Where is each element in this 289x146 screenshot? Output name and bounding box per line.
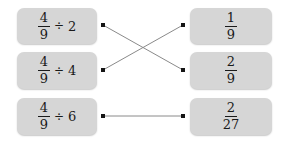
match-option-left-2[interactable]: 4 9 ÷ 4 — [17, 52, 97, 89]
division-operator-icon: ÷ — [53, 111, 65, 123]
fraction-numerator: 2 — [225, 55, 237, 71]
fraction-denominator: 9 — [38, 71, 50, 86]
connector-line-left-1-to-right-2[interactable] — [103, 25, 183, 70]
division-operator-icon: ÷ — [53, 65, 65, 77]
fraction-left-3: 4 9 — [38, 101, 50, 131]
fraction-left-1: 4 9 — [38, 11, 50, 41]
fraction-denominator: 9 — [38, 117, 50, 132]
fraction-left-2: 4 9 — [38, 55, 50, 85]
dot-right-1[interactable] — [181, 23, 185, 27]
connector-lines — [103, 25, 183, 116]
expression-right-1: 1 9 — [225, 11, 237, 41]
dot-left-3[interactable] — [101, 114, 105, 118]
dot-right-3[interactable] — [181, 114, 185, 118]
matching-exercise-canvas: 4 9 ÷ 2 4 9 ÷ 4 4 9 ÷ 6 — [0, 0, 289, 146]
fraction-right-3: 2 27 — [221, 101, 242, 131]
connector-line-left-2-to-right-1[interactable] — [103, 25, 183, 70]
dot-left-1[interactable] — [101, 23, 105, 27]
connector-dots — [101, 23, 185, 118]
dot-right-2[interactable] — [181, 68, 185, 72]
fraction-numerator: 2 — [225, 101, 237, 117]
expression-right-2: 2 9 — [225, 55, 237, 85]
operand-left-2: 4 — [68, 64, 76, 77]
fraction-denominator: 9 — [225, 71, 237, 86]
expression-left-2: 4 9 ÷ 4 — [38, 55, 77, 85]
division-operator-icon: ÷ — [53, 20, 65, 32]
expression-right-3: 2 27 — [221, 101, 242, 131]
match-option-right-1[interactable]: 1 9 — [190, 8, 272, 44]
fraction-right-1: 1 9 — [225, 11, 237, 41]
expression-left-3: 4 9 ÷ 6 — [38, 101, 77, 131]
fraction-numerator: 1 — [225, 11, 237, 27]
fraction-denominator: 27 — [221, 117, 242, 132]
fraction-numerator: 4 — [38, 11, 50, 27]
fraction-right-2: 2 9 — [225, 55, 237, 85]
fraction-denominator: 9 — [225, 27, 237, 42]
expression-left-1: 4 9 ÷ 2 — [38, 11, 77, 41]
operand-left-1: 2 — [68, 20, 76, 33]
match-option-right-2[interactable]: 2 9 — [190, 52, 272, 89]
match-option-left-1[interactable]: 4 9 ÷ 2 — [17, 8, 97, 44]
operand-left-3: 6 — [68, 110, 76, 123]
fraction-numerator: 4 — [38, 101, 50, 117]
fraction-numerator: 4 — [38, 55, 50, 71]
fraction-denominator: 9 — [38, 27, 50, 42]
match-option-right-3[interactable]: 2 27 — [190, 98, 272, 135]
match-option-left-3[interactable]: 4 9 ÷ 6 — [17, 98, 97, 135]
dot-left-2[interactable] — [101, 68, 105, 72]
